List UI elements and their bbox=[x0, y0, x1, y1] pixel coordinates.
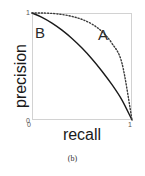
y-axis-title: precision bbox=[11, 23, 31, 130]
figure-caption: (b) bbox=[0, 154, 145, 164]
series-group bbox=[32, 13, 132, 120]
figure-panel: B A 1 0 0 1 precision recall (b) bbox=[0, 0, 145, 176]
curve-b-solid bbox=[32, 13, 132, 120]
precision-recall-plot bbox=[32, 13, 132, 120]
curve-label-b: B bbox=[35, 25, 45, 40]
x-axis-title: recall bbox=[32, 126, 132, 144]
curve-a-dotted bbox=[32, 13, 132, 120]
y-axis-tick-top: 1 bbox=[26, 9, 30, 16]
curve-label-a: A bbox=[98, 27, 108, 42]
